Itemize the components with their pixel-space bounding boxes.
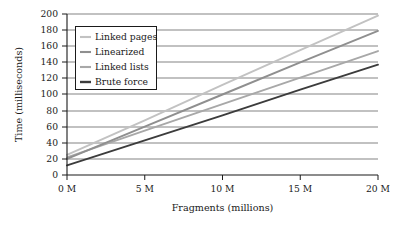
y-tick-label-60: 60 [46, 121, 58, 132]
x-axis-title: Fragments (millions) [172, 202, 274, 213]
x-tick-label-0: 0 M [58, 183, 76, 194]
x-tick-label-20: 20 M [366, 183, 390, 194]
line-chart: 200 180 160 140 120 100 80 60 40 20 0 0 … [0, 0, 395, 227]
y-tick-label-160: 160 [40, 40, 58, 51]
legend-label-linked-lists: Linked lists [95, 61, 149, 72]
y-tick-label-180: 180 [40, 24, 58, 35]
y-tick-label-20: 20 [46, 153, 58, 164]
y-tick-label-140: 140 [40, 56, 58, 67]
y-tick-label-0: 0 [52, 169, 58, 180]
x-tick-label-5: 5 M [136, 183, 154, 194]
x-tick-label-15: 15 M [288, 183, 312, 194]
chart-figure: 200 180 160 140 120 100 80 60 40 20 0 0 … [0, 0, 395, 227]
legend-label-linearized: Linearized [95, 46, 144, 57]
y-tick-label-100: 100 [40, 88, 58, 99]
x-tick-label-10: 10 M [210, 183, 234, 194]
legend-label-brute-force: Brute force [95, 76, 148, 87]
y-tick-label-120: 120 [40, 72, 58, 83]
legend-label-linked-pages: Linked pages [95, 31, 157, 42]
y-tick-label-200: 200 [40, 8, 58, 19]
y-tick-label-80: 80 [46, 105, 58, 116]
legend: Linked pages Linearized Linked lists Bru… [76, 27, 158, 90]
y-axis-title: Time (milliseconds) [13, 47, 24, 142]
y-tick-label-40: 40 [46, 137, 58, 148]
